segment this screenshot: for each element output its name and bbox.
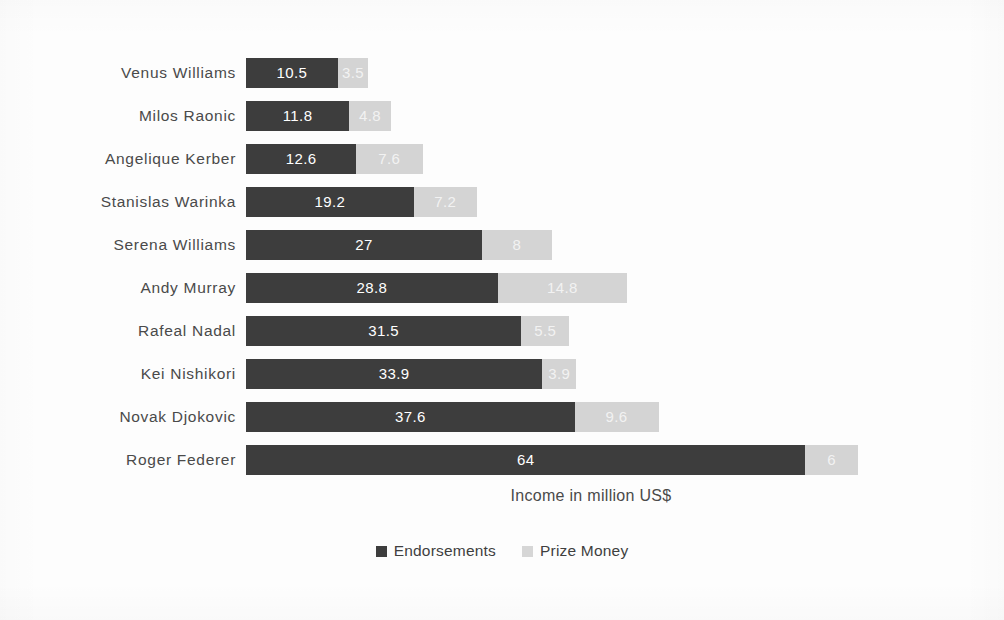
bar-track: 33.93.9 [246,359,576,389]
legend-swatch-prize-money-icon [522,546,533,557]
bar-segment-prize-money[interactable]: 7.2 [414,187,477,217]
bar-value-label: 28.8 [246,273,498,303]
bar-value-label: 33.9 [246,359,542,389]
bar-value-label: 10.5 [246,58,338,88]
category-label: Serena Williams [0,230,236,260]
bar-value-label: 3.5 [338,58,369,88]
category-label: Roger Federer [0,445,236,475]
chart-page: Venus Williams10.53.5Milos Raonic11.84.8… [0,0,1004,620]
bar-segment-prize-money[interactable]: 3.5 [338,58,369,88]
category-label: Milos Raonic [0,101,236,131]
bar-value-label: 5.5 [521,316,569,346]
bar-value-label: 27 [246,230,482,260]
category-label: Novak Djokovic [0,402,236,432]
chart-bar-row: Kei Nishikori33.93.9 [0,359,1004,389]
category-label: Stanislas Warinka [0,187,236,217]
bar-segment-endorsements[interactable]: 64 [246,445,805,475]
stacked-bar-chart-plot: Venus Williams10.53.5Milos Raonic11.84.8… [0,0,1004,620]
category-label: Rafeal Nadal [0,316,236,346]
chart-bar-row: Rafeal Nadal31.55.5 [0,316,1004,346]
bar-value-label: 64 [246,445,805,475]
bar-value-label: 8 [482,230,552,260]
chart-bar-row: Stanislas Warinka19.27.2 [0,187,1004,217]
bar-segment-prize-money[interactable]: 5.5 [521,316,569,346]
category-label: Venus Williams [0,58,236,88]
bar-segment-endorsements[interactable]: 37.6 [246,402,575,432]
bar-value-label: 7.2 [414,187,477,217]
bar-track: 19.27.2 [246,187,477,217]
bar-segment-prize-money[interactable]: 14.8 [498,273,627,303]
bar-value-label: 14.8 [498,273,627,303]
bar-value-label: 9.6 [575,402,659,432]
bar-value-label: 7.6 [356,144,422,174]
bar-segment-endorsements[interactable]: 27 [246,230,482,260]
chart-bar-row: Milos Raonic11.84.8 [0,101,1004,131]
bar-segment-prize-money[interactable]: 6 [805,445,857,475]
bar-value-label: 4.8 [349,101,391,131]
chart-bar-row: Andy Murray28.814.8 [0,273,1004,303]
bar-track: 12.67.6 [246,144,423,174]
bar-track: 28.814.8 [246,273,627,303]
legend-swatch-endorsements-icon [376,546,387,557]
bar-track: 31.55.5 [246,316,569,346]
bar-value-label: 3.9 [542,359,576,389]
bar-track: 278 [246,230,552,260]
legend-item-endorsements[interactable]: Endorsements [376,542,496,560]
chart-bar-row: Novak Djokovic37.69.6 [0,402,1004,432]
chart-bar-row: Serena Williams278 [0,230,1004,260]
bar-segment-prize-money[interactable]: 8 [482,230,552,260]
bar-segment-endorsements[interactable]: 10.5 [246,58,338,88]
bar-segment-endorsements[interactable]: 19.2 [246,187,414,217]
bar-track: 11.84.8 [246,101,391,131]
category-label: Angelique Kerber [0,144,236,174]
bar-segment-endorsements[interactable]: 33.9 [246,359,542,389]
bar-track: 646 [246,445,858,475]
chart-bar-row: Roger Federer646 [0,445,1004,475]
bar-track: 10.53.5 [246,58,368,88]
legend-label-endorsements: Endorsements [394,542,496,560]
x-axis-title: Income in million US$ [246,487,936,505]
bar-value-label: 31.5 [246,316,521,346]
bar-segment-prize-money[interactable]: 4.8 [349,101,391,131]
bar-value-label: 19.2 [246,187,414,217]
chart-bar-row: Angelique Kerber12.67.6 [0,144,1004,174]
bar-segment-endorsements[interactable]: 28.8 [246,273,498,303]
bar-value-label: 11.8 [246,101,349,131]
bar-segment-endorsements[interactable]: 12.6 [246,144,356,174]
bar-value-label: 12.6 [246,144,356,174]
bar-segment-prize-money[interactable]: 3.9 [542,359,576,389]
bar-value-label: 6 [805,445,857,475]
chart-bar-row: Venus Williams10.53.5 [0,58,1004,88]
category-label: Kei Nishikori [0,359,236,389]
category-label: Andy Murray [0,273,236,303]
chart-legend: Endorsements Prize Money [0,542,1004,560]
bar-segment-endorsements[interactable]: 31.5 [246,316,521,346]
bar-segment-prize-money[interactable]: 7.6 [356,144,422,174]
legend-item-prize-money[interactable]: Prize Money [522,542,628,560]
bar-track: 37.69.6 [246,402,659,432]
bar-segment-endorsements[interactable]: 11.8 [246,101,349,131]
bar-segment-prize-money[interactable]: 9.6 [575,402,659,432]
legend-label-prize-money: Prize Money [540,542,628,560]
bar-value-label: 37.6 [246,402,575,432]
